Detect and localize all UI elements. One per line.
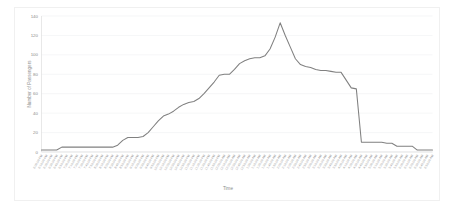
y-axis-tick-label: 20	[33, 130, 38, 135]
series-line-passengers	[42, 23, 433, 150]
y-axis-tick-label: 140	[31, 14, 39, 19]
chart-container: 020406080100120140 6:00:00 PM6:10:00 PM6…	[0, 0, 455, 210]
data-series-group	[42, 23, 433, 150]
y-axis-tick-label: 120	[31, 33, 39, 38]
line-chart-plot: 020406080100120140 6:00:00 PM6:10:00 PM6…	[0, 0, 455, 210]
y-axis-tick-label: 40	[33, 111, 38, 116]
y-axis-tick-label: 80	[33, 72, 38, 77]
axis-lines	[42, 16, 433, 152]
gridlines-group	[42, 16, 433, 152]
x-axis-tick-labels: 6:00:00 PM6:10:00 PM6:20:00 PM6:30:00 PM…	[32, 153, 435, 171]
y-axis-tick-label: 60	[33, 91, 38, 96]
x-axis-title: Time	[223, 186, 233, 191]
y-axis-tick-label: 100	[31, 52, 39, 57]
y-axis-tick-label: 0	[36, 150, 39, 155]
y-axis-title: Number of Passengers	[27, 60, 32, 108]
